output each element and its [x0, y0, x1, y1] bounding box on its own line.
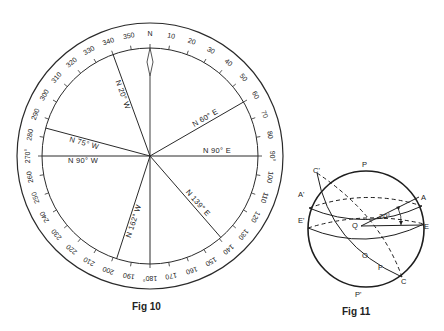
- degree-tick: [45, 118, 49, 119]
- degree-tick: [78, 70, 81, 73]
- degree-label: 40: [223, 57, 234, 67]
- degree-tick: [219, 70, 222, 73]
- degree-tick: [94, 59, 96, 62]
- degree-tick: [169, 262, 170, 266]
- label-e-prime: E': [298, 216, 305, 225]
- degree-label: 50: [238, 72, 248, 83]
- degree-tick: [204, 59, 206, 62]
- degree-tick: [53, 210, 56, 212]
- label-p: P: [362, 160, 367, 169]
- degree-label: 60: [251, 90, 261, 100]
- degree-label: 330: [82, 44, 96, 56]
- degree-tick: [233, 84, 236, 87]
- degree-tick: [131, 262, 132, 266]
- degree-tick: [53, 100, 56, 102]
- degree-tick: [94, 250, 96, 253]
- degree-label: 350: [122, 31, 135, 40]
- degree-label: 200: [101, 265, 114, 276]
- bearing-label: N 162° W: [124, 203, 143, 239]
- degree-tick: [112, 51, 113, 55]
- degree-tick: [244, 210, 247, 212]
- degree-label: 220: [65, 243, 79, 256]
- label-a-prime: A': [298, 190, 305, 199]
- label-q: Q: [352, 221, 358, 230]
- degree-tick: [219, 239, 222, 242]
- degree-label: 300: [38, 88, 50, 102]
- degree-label: 80: [266, 130, 274, 139]
- degree-label: 100: [266, 171, 275, 184]
- north-needle-icon: [147, 48, 153, 76]
- degree-label: 20: [187, 37, 197, 46]
- degree-label: 10: [167, 32, 176, 40]
- degree-tick: [64, 225, 67, 228]
- degree-label: 140: [222, 243, 236, 256]
- degree-tick: [78, 239, 81, 242]
- degree-tick: [131, 46, 132, 50]
- label-o: O: [362, 251, 368, 260]
- degree-tick: [40, 137, 44, 138]
- degree-tick: [251, 118, 255, 119]
- angle-arrow-bottom: [399, 221, 403, 225]
- degree-tick: [204, 250, 206, 253]
- label-f: F: [378, 263, 383, 272]
- degree-label: 120: [250, 210, 262, 224]
- degree-tick: [256, 175, 260, 176]
- degree-tick: [112, 257, 113, 261]
- degree-label: 30: [206, 45, 216, 55]
- degree-tick: [187, 257, 188, 261]
- bearing-label: N 20° W: [114, 79, 133, 111]
- angle-label: 20°: [379, 212, 390, 221]
- label-c-prime: C': [313, 166, 320, 175]
- label-p-prime: P': [355, 290, 362, 299]
- degree-label: 70: [260, 109, 269, 119]
- degree-label: 90°: [269, 151, 276, 162]
- degree-tick: [233, 225, 236, 228]
- degree-tick: [45, 193, 49, 194]
- degree-label: 280: [25, 128, 34, 141]
- label-a: A: [421, 193, 426, 202]
- fig11-caption: Fig 11: [342, 306, 370, 317]
- degree-tick: [244, 100, 247, 102]
- bearing-label: N 90° E: [203, 146, 231, 155]
- degree-label: 290: [30, 107, 41, 120]
- degree-label: 210: [82, 256, 96, 268]
- degree-label: 170: [165, 272, 178, 281]
- parallel-front: [309, 206, 422, 220]
- degree-label: 250: [30, 191, 41, 204]
- degree-label: 180°: [143, 275, 158, 282]
- degree-label: 160: [185, 266, 198, 277]
- degree-label: 110: [260, 191, 270, 204]
- degree-label: 340: [102, 36, 115, 47]
- fig10-caption: Fig 10: [132, 301, 161, 312]
- degree-label: 260: [25, 171, 34, 184]
- degree-label: 310: [50, 71, 63, 85]
- compass-rose-diagram: N102030405060708090°10011012013014015016…: [0, 0, 444, 331]
- degree-label: 270°: [24, 149, 31, 164]
- degree-label: 130: [237, 228, 250, 242]
- bearing-line: [150, 156, 221, 238]
- degree-tick: [169, 46, 170, 50]
- bearing-label: N 139° E: [184, 188, 212, 218]
- degree-label: 190: [122, 272, 135, 281]
- degree-label: 320: [65, 56, 79, 69]
- line-q-e: [361, 225, 423, 226]
- celestial-sphere-diagram: P P' C' A' A E' E Q O F C 20°: [298, 160, 429, 299]
- degree-tick: [256, 137, 260, 138]
- degree-tick: [187, 51, 188, 55]
- degree-label: 240: [38, 210, 50, 224]
- bearing-label: N 90° W: [68, 156, 99, 165]
- degree-tick: [40, 175, 44, 176]
- label-c: C: [401, 277, 407, 286]
- great-circle-back: [317, 173, 402, 277]
- degree-tick: [251, 193, 255, 194]
- degree-label: 150: [204, 256, 218, 268]
- degree-label: 230: [50, 228, 63, 242]
- degree-label: N: [147, 30, 152, 37]
- great-circle-front: [317, 173, 402, 277]
- degree-tick: [64, 84, 67, 87]
- sphere-outline: [308, 171, 424, 287]
- label-e: E: [424, 222, 429, 231]
- bearing-label: N 75° W: [68, 135, 100, 152]
- compass-rose: N102030405060708090°10011012013014015016…: [17, 23, 283, 289]
